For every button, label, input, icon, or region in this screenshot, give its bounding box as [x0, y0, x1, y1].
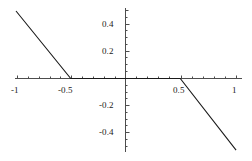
data-series-line: [16, 11, 236, 150]
y-tick-label--0.4: -0.4: [99, 128, 114, 137]
y-tick-label-0.2: 0.2: [102, 47, 114, 56]
x-tick-label-0.5: 0.5: [173, 86, 185, 95]
x-tick-label--1: -1: [11, 86, 19, 95]
y-tick-label-0.4: 0.4: [102, 20, 114, 29]
plot-figure: -1 -0.5 0.5 1 0.4 0.2 -0.2 -0.4: [0, 0, 252, 161]
y-tick-label--0.2: -0.2: [99, 101, 114, 110]
x-tick-label--0.5: -0.5: [58, 86, 73, 95]
x-tick-label-1: 1: [232, 86, 237, 95]
plot-canvas: [0, 0, 252, 161]
